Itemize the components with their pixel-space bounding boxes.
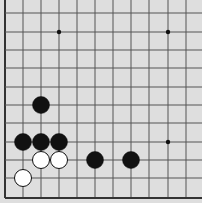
black-stone [51,134,68,151]
white-stone [51,152,68,169]
star-point-icon [57,30,61,34]
board-grid [0,0,202,203]
black-stone [33,134,50,151]
black-stone [87,152,104,169]
black-stone [33,97,50,114]
star-point-icon [166,140,170,144]
white-stone [15,170,32,187]
star-point-icon [166,30,170,34]
black-stone [15,134,32,151]
go-board [0,0,202,203]
black-stone [123,152,140,169]
white-stone [33,152,50,169]
